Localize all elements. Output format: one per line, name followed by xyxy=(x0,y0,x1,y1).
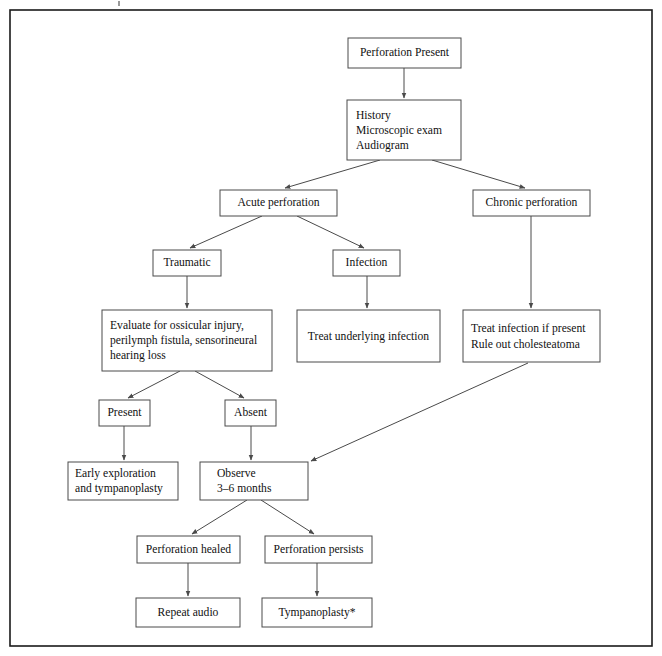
node-history-line3: Audiogram xyxy=(356,139,409,152)
node-evaluate-line1: Evaluate for ossicular injury, xyxy=(110,319,244,332)
node-traumatic: Traumatic xyxy=(153,250,221,276)
node-history-line2: Microscopic exam xyxy=(356,124,442,137)
node-absent: Absent xyxy=(225,400,276,426)
node-early-exploration-line2: and tympanoplasty xyxy=(75,482,163,495)
node-acute-perforation: Acute perforation xyxy=(220,190,337,216)
node-history-line1: History xyxy=(356,109,391,122)
node-present-label: Present xyxy=(107,406,142,419)
node-perforation-healed-label: Perforation healed xyxy=(146,543,232,556)
node-treat-underlying-infection-label: Treat underlying infection xyxy=(308,330,429,343)
node-perforation-persists-label: Perforation persists xyxy=(274,543,364,556)
node-tympanoplasty-label: Tympanoplasty* xyxy=(278,606,355,619)
node-perforation-present-label: Perforation Present xyxy=(360,46,450,59)
node-tympanoplasty: Tympanoplasty* xyxy=(262,598,372,627)
node-evaluate-line2: perilymph fistula, sensorineural xyxy=(110,334,257,347)
node-infection: Infection xyxy=(333,250,400,276)
node-chronic-perforation-label: Chronic perforation xyxy=(486,196,578,209)
node-acute-perforation-label: Acute perforation xyxy=(237,196,319,209)
node-repeat-audio-label: Repeat audio xyxy=(158,606,219,619)
node-early-exploration: Early exploration and tympanoplasty xyxy=(68,462,178,500)
node-perforation-present: Perforation Present xyxy=(348,38,461,68)
scan-artifact xyxy=(118,1,120,6)
node-repeat-audio: Repeat audio xyxy=(136,598,240,627)
figure-root: Perforation Present History Microscopic … xyxy=(0,0,662,656)
node-treat-chronic-line2: Rule out cholesteatoma xyxy=(471,338,580,351)
flowchart-canvas: Perforation Present History Microscopic … xyxy=(0,0,662,656)
node-perforation-persists: Perforation persists xyxy=(265,536,372,563)
node-observe-line2: 3–6 months xyxy=(217,482,272,495)
node-early-exploration-line1: Early exploration xyxy=(75,467,156,480)
node-perforation-healed: Perforation healed xyxy=(137,536,240,563)
node-infection-label: Infection xyxy=(346,256,388,269)
node-evaluate-line3: hearing loss xyxy=(110,349,166,362)
node-evaluate: Evaluate for ossicular injury, perilymph… xyxy=(102,310,272,371)
node-present: Present xyxy=(99,400,150,426)
node-observe-line1: Observe xyxy=(217,467,256,480)
node-chronic-perforation: Chronic perforation xyxy=(473,190,590,216)
node-history: History Microscopic exam Audiogram xyxy=(347,100,461,160)
node-traumatic-label: Traumatic xyxy=(163,256,210,269)
node-treat-chronic: Treat infection if present Rule out chol… xyxy=(463,310,600,362)
node-treat-chronic-box xyxy=(463,310,600,362)
node-absent-label: Absent xyxy=(234,406,268,419)
node-observe: Observe 3–6 months xyxy=(200,462,308,500)
node-treat-chronic-line1: Treat infection if present xyxy=(471,322,586,335)
node-treat-underlying-infection: Treat underlying infection xyxy=(297,310,440,362)
